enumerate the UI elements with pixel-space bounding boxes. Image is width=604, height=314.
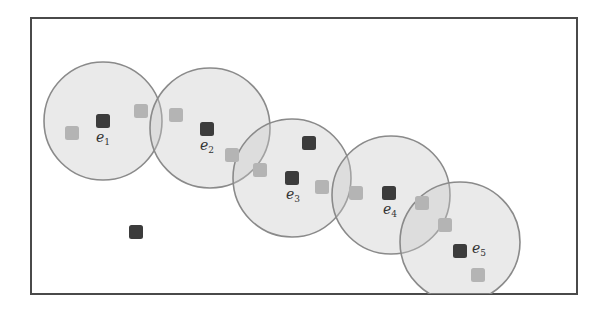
dark-point: [382, 186, 396, 200]
dark-point: [96, 114, 110, 128]
light-point: [253, 163, 267, 177]
dark-point: [285, 171, 299, 185]
light-point: [134, 104, 148, 118]
light-point: [349, 186, 363, 200]
dark-point: [453, 244, 467, 258]
light-point: [471, 268, 485, 282]
light-point: [315, 180, 329, 194]
light-point: [169, 108, 183, 122]
light-point: [65, 126, 79, 140]
dark-point: [129, 225, 143, 239]
light-point: [415, 196, 429, 210]
cluster-diagram: e1e2e3e4e5: [0, 0, 604, 314]
light-point: [438, 218, 452, 232]
cluster-circles: [44, 62, 520, 302]
dark-point: [302, 136, 316, 150]
dark-point: [200, 122, 214, 136]
light-point: [225, 148, 239, 162]
